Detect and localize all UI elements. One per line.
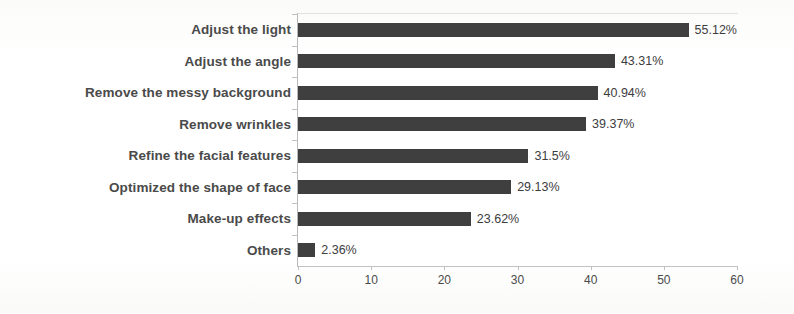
bar-container: 2.36%: [298, 235, 737, 267]
x-tick-label: 20: [438, 273, 451, 287]
bar-row: Adjust the light55.12%: [0, 14, 794, 46]
bar-value-label: 23.62%: [477, 212, 519, 226]
category-label: Optimized the shape of face: [1, 180, 291, 195]
x-tick-mark: [371, 266, 372, 270]
bar: [298, 243, 315, 257]
bar: [298, 180, 511, 194]
bar-value-label: 40.94%: [604, 86, 646, 100]
bar-container: 55.12%: [298, 14, 737, 46]
category-label: Remove the messy background: [1, 85, 291, 100]
bar-row: Remove the messy background40.94%: [0, 77, 794, 109]
x-tick-mark: [591, 266, 592, 270]
category-label: Adjust the light: [1, 22, 291, 37]
bar-container: 40.94%: [298, 77, 737, 109]
x-tick-mark: [664, 266, 665, 270]
x-axis-ticks: 0102030405060: [298, 266, 737, 296]
bar: [298, 86, 598, 100]
x-tick-label: 10: [364, 273, 377, 287]
category-label: Remove wrinkles: [1, 117, 291, 132]
bar-container: 43.31%: [298, 46, 737, 78]
x-tick-label: 60: [730, 273, 743, 287]
bar-row: Others2.36%: [0, 235, 794, 267]
bar: [298, 23, 689, 37]
x-tick-mark: [298, 266, 299, 270]
bar-container: 29.13%: [298, 172, 737, 204]
bar-row: Make-up effects23.62%: [0, 203, 794, 235]
bar-rows: Adjust the light55.12%Adjust the angle43…: [0, 14, 794, 266]
category-label: Others: [1, 243, 291, 258]
bar-row: Refine the facial features31.5%: [0, 140, 794, 172]
category-label: Make-up effects: [1, 211, 291, 226]
category-label: Adjust the angle: [1, 54, 291, 69]
bar-value-label: 39.37%: [592, 117, 634, 131]
x-tick-mark: [444, 266, 445, 270]
x-tick-label: 40: [584, 273, 597, 287]
bar-row: Optimized the shape of face29.13%: [0, 172, 794, 204]
x-tick-label: 30: [511, 273, 524, 287]
bar-value-label: 31.5%: [534, 149, 569, 163]
bar-row: Adjust the angle43.31%: [0, 46, 794, 78]
bar-value-label: 55.12%: [695, 23, 737, 37]
bar: [298, 212, 471, 226]
bar-chart: Adjust the light55.12%Adjust the angle43…: [0, 0, 794, 314]
bar-value-label: 29.13%: [517, 180, 559, 194]
bar-row: Remove wrinkles39.37%: [0, 109, 794, 141]
bar: [298, 117, 586, 131]
bar-value-label: 43.31%: [621, 54, 663, 68]
x-tick-label: 50: [657, 273, 670, 287]
bar-container: 31.5%: [298, 140, 737, 172]
bar-value-label: 2.36%: [321, 243, 356, 257]
bar: [298, 149, 528, 163]
bar-container: 23.62%: [298, 203, 737, 235]
bar: [298, 54, 615, 68]
x-tick-label: 0: [295, 273, 302, 287]
x-tick-mark: [737, 266, 738, 270]
x-tick-mark: [518, 266, 519, 270]
category-label: Refine the facial features: [1, 148, 291, 163]
bar-container: 39.37%: [298, 109, 737, 141]
